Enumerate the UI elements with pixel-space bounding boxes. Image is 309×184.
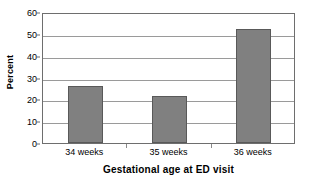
y-axis-tick-label: 60 (27, 9, 37, 18)
y-axis-tick-mark (37, 78, 40, 79)
x-axis-tick-label: 34 weeks (65, 147, 103, 158)
bars-layer (43, 14, 294, 143)
y-axis-tick-labels: 0102030405060 (18, 13, 40, 144)
y-axis-tick-label: 20 (27, 96, 37, 105)
y-axis-tick-label: 10 (27, 118, 37, 127)
y-axis-tick-label: 40 (27, 52, 37, 61)
bar (152, 96, 187, 143)
y-axis-tick-mark (37, 100, 40, 101)
y-axis-tick-label: 30 (27, 74, 37, 83)
y-axis-tick-mark (37, 34, 40, 35)
bar-chart-figure: Percent 0102030405060 34 weeks35 weeks36… (0, 0, 309, 184)
y-axis-tick-label: 50 (27, 30, 37, 39)
y-axis-tick-mark (37, 13, 40, 14)
plot-area (42, 13, 295, 144)
y-axis-tick-mark (37, 122, 40, 123)
y-axis-title: Percent (0, 0, 20, 144)
x-axis-title: Gestational age at ED visit (42, 164, 295, 175)
y-axis-tick-mark (37, 144, 40, 145)
bar (236, 29, 271, 143)
y-axis-title-label: Percent (5, 55, 15, 89)
x-axis-tick-labels: 34 weeks35 weeks36 weeks (42, 147, 295, 160)
x-axis-tick-label: 35 weeks (149, 147, 187, 158)
x-axis-tick-label: 36 weeks (234, 147, 272, 158)
bar (68, 86, 103, 143)
y-axis-tick-mark (37, 56, 40, 57)
